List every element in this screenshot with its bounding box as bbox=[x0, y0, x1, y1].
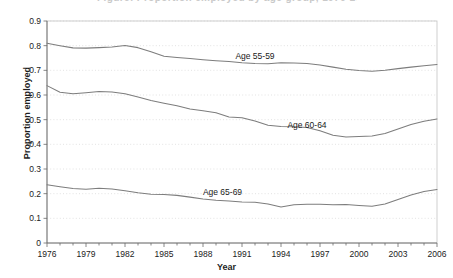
x-tick-label: 1997 bbox=[311, 249, 330, 259]
y-tick-label: 0.4 bbox=[29, 139, 41, 149]
x-tick-label: 1985 bbox=[155, 249, 174, 259]
y-tick-label: 0.5 bbox=[29, 115, 41, 125]
line-chart-plot: 00.10.20.30.40.50.60.70.80.9 19761979198… bbox=[0, 0, 453, 278]
x-tick-label: 2006 bbox=[428, 249, 447, 259]
series-lines-group bbox=[47, 43, 437, 207]
y-tick-label: 0.8 bbox=[29, 41, 41, 51]
x-tick-label: 1994 bbox=[272, 249, 291, 259]
x-tick-labels-group: 1976197919821985198819911994199720002003… bbox=[38, 249, 447, 259]
y-tick-label: 0.9 bbox=[29, 16, 41, 26]
y-tick-label: 0 bbox=[36, 238, 41, 248]
y-tick-label: 0.1 bbox=[29, 213, 41, 223]
x-tick-label: 1979 bbox=[77, 249, 96, 259]
x-tick-label: 1982 bbox=[116, 249, 135, 259]
x-tick-label: 1988 bbox=[194, 249, 213, 259]
chart-figure: Figure: Proportion employed by age group… bbox=[0, 0, 453, 278]
series-label-age-60-64: Age 60-64 bbox=[287, 120, 326, 130]
x-tick-label: 1976 bbox=[38, 249, 57, 259]
y-tick-label: 0.2 bbox=[29, 189, 41, 199]
x-tick-label: 2000 bbox=[350, 249, 369, 259]
y-tick-label: 0.7 bbox=[29, 65, 41, 75]
series-line-age-60-64 bbox=[47, 86, 437, 137]
series-label-age-65-69: Age 65-69 bbox=[203, 187, 242, 197]
y-tick-label: 0.6 bbox=[29, 90, 41, 100]
x-tick-label: 2003 bbox=[389, 249, 408, 259]
y-tick-label: 0.3 bbox=[29, 164, 41, 174]
x-tick-label: 1991 bbox=[233, 249, 252, 259]
series-label-age-55-59: Age 55-59 bbox=[235, 51, 274, 61]
y-tick-labels-group: 00.10.20.30.40.50.60.70.80.9 bbox=[29, 16, 41, 248]
